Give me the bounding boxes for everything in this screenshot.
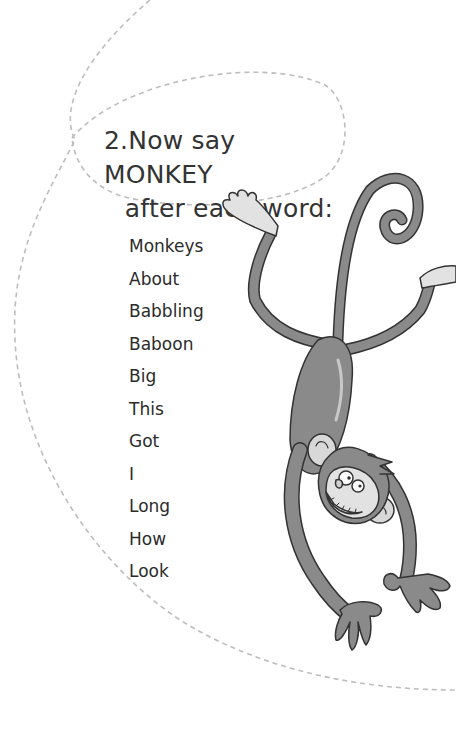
monkey-illustration (0, 0, 456, 739)
activity-page: 2.Now say MONKEY after each word: Monkey… (0, 0, 456, 739)
